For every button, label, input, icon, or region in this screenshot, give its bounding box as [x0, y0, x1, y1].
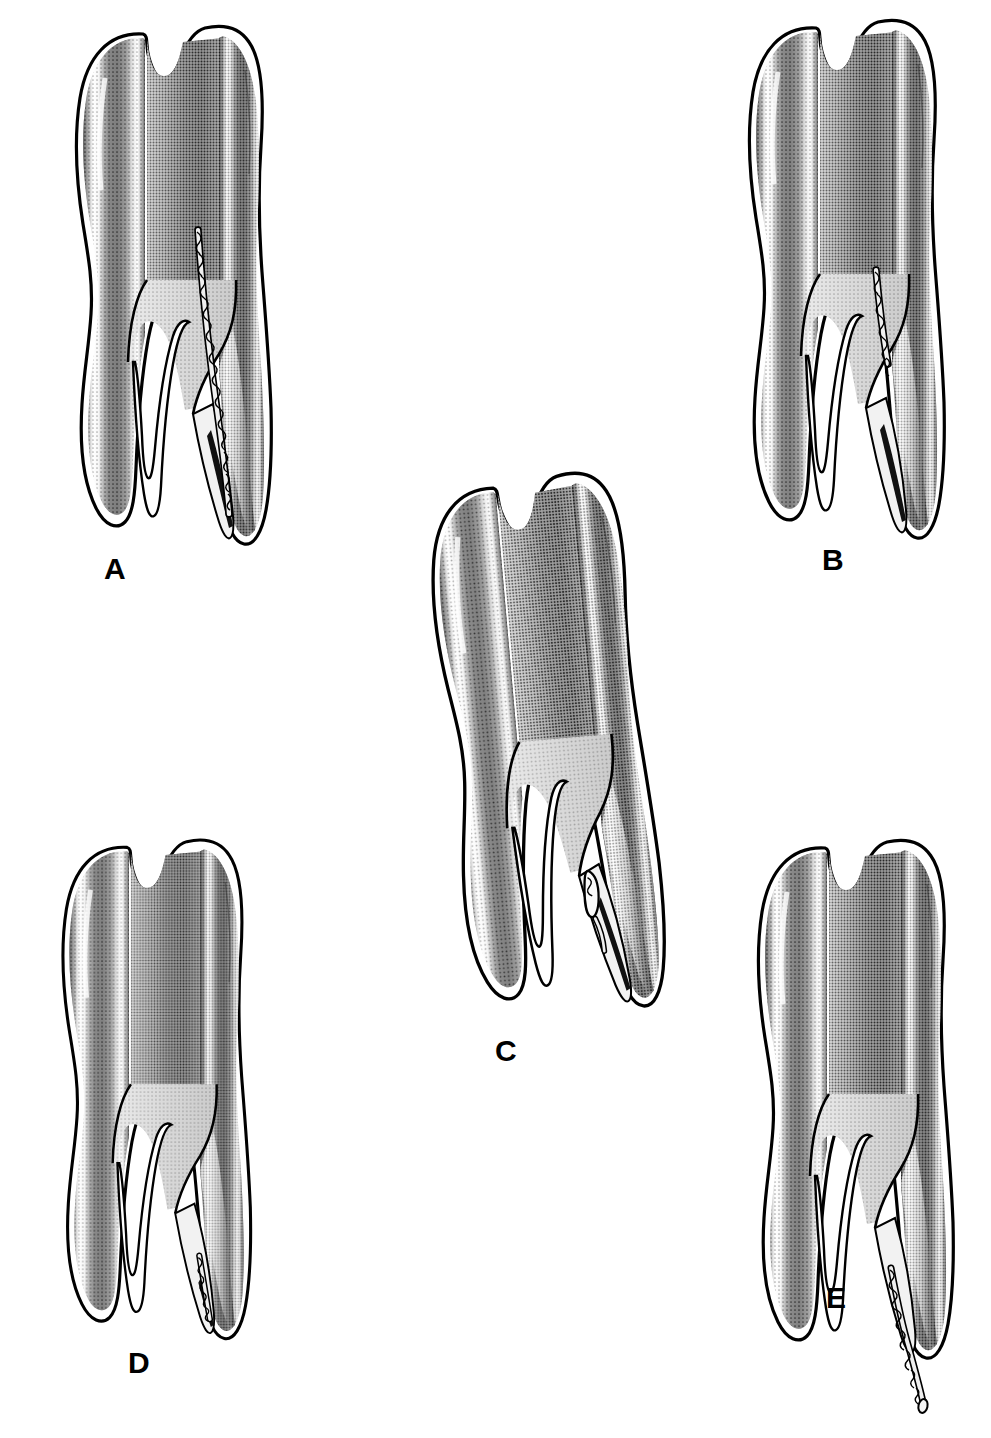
tooth-body-c: [423, 469, 671, 1022]
panel-label-e: E: [826, 1283, 846, 1313]
tooth-body-e: [758, 840, 953, 1413]
tooth-panel-d: [10, 832, 300, 1352]
tooth-illustration-d: [10, 832, 300, 1352]
panel-label-b: B: [822, 545, 844, 575]
tooth-illustration-b: [700, 12, 990, 552]
tooth-panel-a: [22, 18, 322, 558]
panel-label-d: D: [128, 1348, 150, 1378]
panel-label-c: C: [495, 1036, 517, 1066]
figure-canvas: A: [0, 0, 991, 1438]
tooth-panel-c: [415, 468, 677, 1028]
tooth-panel-e: [718, 832, 990, 1412]
tooth-body-d: [63, 840, 251, 1339]
tooth-body-a: [76, 26, 271, 544]
tooth-body-b: [749, 20, 944, 538]
panel-label-a: A: [104, 554, 126, 584]
tooth-panel-b: [700, 12, 990, 552]
file-tip: [917, 1398, 929, 1414]
tooth-illustration-e: [718, 832, 990, 1432]
tooth-illustration-c: [415, 468, 677, 1028]
tooth-illustration-a: [22, 18, 322, 558]
